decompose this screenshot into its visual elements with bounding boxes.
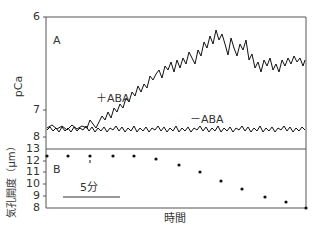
minus-aba-label: －ABA: [190, 114, 224, 125]
chart-canvas: [0, 0, 319, 231]
y-axis-label-b: 気孔開度（μm）: [3, 141, 18, 217]
minus-aba-trace: [47, 126, 305, 132]
tick-b-9: 9: [20, 190, 40, 201]
tick-b-10: 10: [20, 178, 40, 189]
tick-a-7: 7: [20, 104, 40, 115]
tick-a-6: 6: [20, 11, 40, 22]
panel-b-label: B: [53, 164, 61, 175]
tick-b-8: 8: [20, 202, 40, 213]
tick-a-8: 8: [20, 131, 40, 142]
x-axis-label: 時間: [164, 213, 186, 224]
tick-b-13: 13: [20, 143, 40, 154]
plus-aba-trace: [47, 30, 305, 130]
panel-a-label: A: [53, 35, 61, 46]
y-axis-label-a: pCa: [12, 76, 25, 97]
tick-b-11: 11: [20, 166, 40, 177]
scale-bar-label: 5分: [80, 182, 98, 193]
plus-aba-label: ＋ABA: [96, 93, 130, 104]
